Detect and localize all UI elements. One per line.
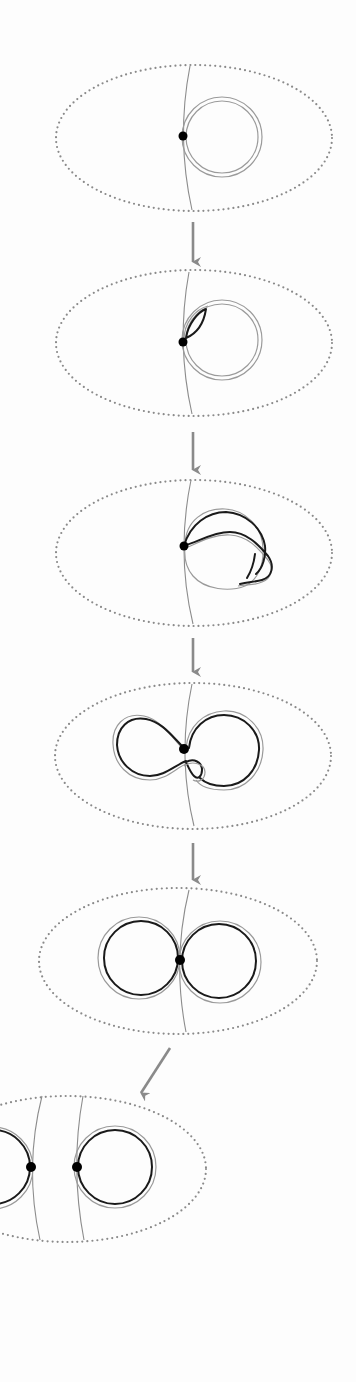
- dotted-boundary-ellipse: [56, 65, 332, 211]
- left-lobe-dark-strand: [117, 719, 186, 776]
- right-circle-dark-strand: [182, 924, 256, 998]
- left-base-point: [26, 1162, 36, 1172]
- stage-2: [56, 270, 332, 416]
- dotted-boundary-ellipse: [56, 480, 332, 626]
- left-circle-light-strand: [98, 917, 180, 999]
- loop-outer-strand: [182, 97, 262, 177]
- loop-light-strand-inner: [188, 535, 271, 586]
- dotted-boundary-ellipse: [56, 270, 332, 416]
- right-circle-light-strand: [74, 1126, 156, 1208]
- leaf-light-outline: [184, 306, 208, 340]
- stage-3: [56, 480, 332, 626]
- base-point: [175, 955, 185, 965]
- right-base-point: [72, 1162, 82, 1172]
- dotted-boundary-ellipse: [55, 683, 331, 829]
- dividing-curve: [185, 684, 194, 826]
- dividing-curve: [184, 480, 193, 624]
- base-point: [179, 132, 188, 141]
- stage-5: [39, 888, 317, 1034]
- loop-inner-strand: [186, 101, 258, 173]
- right-circle-light-strand: [179, 921, 261, 1003]
- arrow-stage5-to-stage6: [141, 1048, 170, 1093]
- left-circle-dark-strand: [0, 1130, 30, 1204]
- stage-4: [55, 683, 331, 829]
- right-circle-dark-strand: [78, 1130, 152, 1204]
- base-point: [180, 542, 189, 551]
- stage-1: [56, 65, 332, 211]
- stage-6: [0, 1096, 206, 1242]
- loop-outer-strand: [182, 300, 262, 380]
- left-circle-dark-strand: [104, 921, 178, 995]
- topology-sequence-diagram: [0, 0, 356, 1382]
- base-point: [179, 744, 189, 754]
- inner-leaf-strand: [186, 309, 206, 338]
- base-point: [179, 338, 188, 347]
